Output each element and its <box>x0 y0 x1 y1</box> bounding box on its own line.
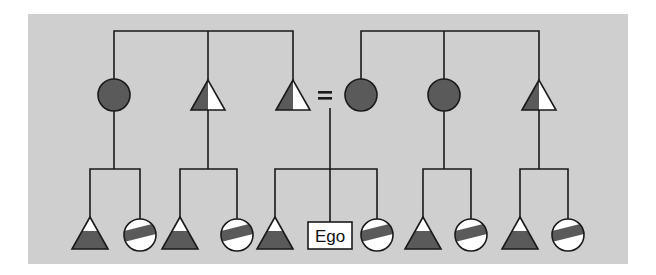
marriage-equals-sign <box>318 91 332 100</box>
kinship-diagram: Ego <box>0 0 656 275</box>
ego-label: Ego <box>315 227 345 246</box>
gen2-female-2 <box>217 219 257 251</box>
right-sibling-connector <box>361 31 539 80</box>
descent-lines <box>90 108 568 222</box>
gen2-female-4 <box>451 219 491 251</box>
gen1-male-halfshaded-1 <box>190 79 226 111</box>
gen2-male-2 <box>160 216 200 251</box>
left-sibling-connector <box>114 31 293 80</box>
gen2-female-5 <box>548 219 588 251</box>
gen2-male-1 <box>70 216 110 251</box>
gen2-male-3 <box>255 216 295 251</box>
gen1-female-solid-2 <box>345 79 377 111</box>
gen1-female-solid-3 <box>428 79 460 111</box>
gen1-female-solid-1 <box>98 79 130 111</box>
gen1-male-halfshaded-3 <box>521 79 557 111</box>
gen1-male-halfshaded-2 <box>275 79 311 111</box>
kinship-chart-canvas: Ego <box>0 0 656 275</box>
gen2-female-3 <box>357 219 397 251</box>
gen2-male-4 <box>403 216 443 251</box>
gen2-female-1 <box>120 219 160 251</box>
ego-box: Ego <box>308 222 352 249</box>
gen2-male-5 <box>500 216 540 251</box>
